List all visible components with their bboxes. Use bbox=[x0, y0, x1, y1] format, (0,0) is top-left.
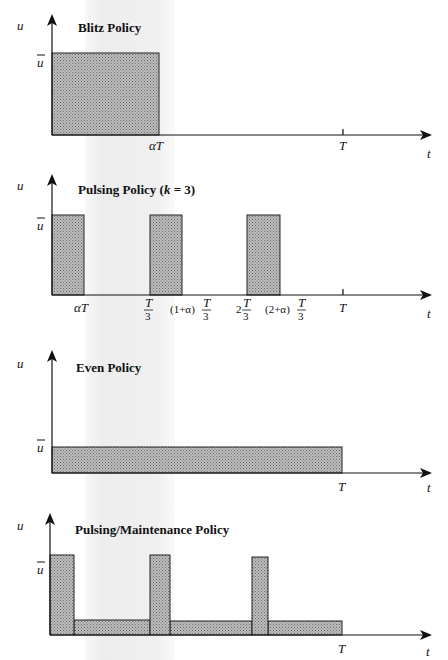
tick-label-alphaT: αT bbox=[149, 138, 164, 153]
x-axis-label: t bbox=[427, 306, 431, 321]
svg-text:T: T bbox=[298, 295, 306, 310]
y-axis-label: u bbox=[17, 356, 24, 371]
tick-label-T-over-3: T 3 bbox=[144, 295, 153, 322]
tick-label-two-plus-alpha-T-over-3: (2+α) T 3 bbox=[265, 295, 306, 322]
blitz-bar bbox=[52, 53, 159, 135]
svg-text:T: T bbox=[243, 295, 251, 310]
panel-even: u u Even Policy T t bbox=[17, 352, 431, 495]
maintenance-bar-3 bbox=[268, 621, 342, 635]
y-axis-label: u bbox=[17, 178, 24, 193]
x-axis-label: t bbox=[427, 146, 431, 161]
ubar-label: u bbox=[37, 562, 44, 577]
svg-text:(2+α): (2+α) bbox=[265, 303, 290, 316]
ubar-label: u bbox=[37, 55, 44, 70]
pulse-bar-1 bbox=[50, 555, 74, 635]
pulse-bar-2 bbox=[150, 555, 170, 635]
tick-label-T: T bbox=[339, 138, 347, 153]
x-axis-label: t bbox=[426, 644, 430, 659]
svg-text:3: 3 bbox=[298, 310, 304, 322]
y-axis-label: u bbox=[17, 18, 24, 33]
svg-text:3: 3 bbox=[243, 310, 249, 322]
svg-text:(1+α): (1+α) bbox=[170, 303, 195, 316]
pulse-bar-1 bbox=[52, 215, 84, 295]
panel-title: Blitz Policy bbox=[78, 20, 142, 35]
svg-text:T: T bbox=[145, 295, 153, 310]
ubar-label: u bbox=[37, 440, 44, 455]
svg-text:2: 2 bbox=[236, 303, 242, 315]
panel-pulsing-maintenance: u u Pulsing/Maintenance Policy T t bbox=[17, 515, 430, 659]
maintenance-bar-2 bbox=[170, 621, 252, 635]
panel-title: Even Policy bbox=[76, 360, 142, 375]
pulse-bar-3 bbox=[247, 215, 280, 295]
x-axis-label: t bbox=[427, 480, 431, 495]
pulse-bar-2 bbox=[150, 215, 182, 295]
tick-label-alphaT: αT bbox=[74, 300, 89, 315]
policy-diagram: u u Blitz Policy αT T t u u Pulsing Poli… bbox=[0, 0, 448, 660]
even-bar bbox=[52, 447, 342, 473]
y-axis-label: u bbox=[17, 518, 24, 533]
panel-title: Pulsing Policy (k = 3) bbox=[78, 182, 195, 197]
tick-label-T: T bbox=[339, 300, 347, 315]
tick-label-T: T bbox=[338, 479, 346, 494]
ubar-label: u bbox=[37, 218, 44, 233]
panel-blitz: u u Blitz Policy αT T t bbox=[17, 16, 431, 161]
panel-title: Pulsing/Maintenance Policy bbox=[75, 522, 230, 537]
svg-text:3: 3 bbox=[203, 310, 209, 322]
pulse-bar-3 bbox=[252, 557, 268, 635]
svg-text:T: T bbox=[203, 295, 211, 310]
tick-label-two-T-over-3: 2 T 3 bbox=[236, 295, 251, 322]
figure-page: u u Blitz Policy αT T t u u Pulsing Poli… bbox=[0, 0, 448, 660]
panel-pulsing: u u Pulsing Policy (k = 3) αT T 3 (1+α) … bbox=[17, 176, 431, 322]
maintenance-bar-1 bbox=[74, 620, 150, 635]
tick-label-one-plus-alpha-T-over-3: (1+α) T 3 bbox=[170, 295, 211, 322]
tick-label-T: T bbox=[338, 641, 346, 656]
svg-text:3: 3 bbox=[145, 310, 151, 322]
